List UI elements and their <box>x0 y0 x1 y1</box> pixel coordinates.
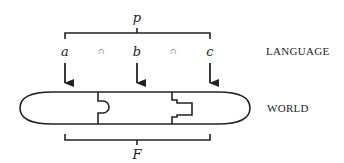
conjunction-symbol-1: ∩ <box>98 47 105 56</box>
language-level-label: LANGUAGE <box>266 45 330 57</box>
bottom-bracket <box>65 134 210 145</box>
conjunction-symbol-2: ∩ <box>170 47 177 56</box>
bottom-label-f: F <box>131 147 142 162</box>
item-label-a: a <box>61 44 69 59</box>
puzzle-joint-round <box>98 92 109 124</box>
top-label-p: p <box>133 10 142 25</box>
item-label-b: b <box>133 44 141 59</box>
puzzle-joint-square <box>172 92 192 124</box>
world-level-label: WORLD <box>267 102 309 114</box>
world-capsule <box>20 92 250 124</box>
top-bracket <box>65 28 210 39</box>
language-world-diagram: p a ∩ b ∩ c F LANGUAGE WORLD <box>0 0 344 163</box>
item-label-c: c <box>206 44 214 59</box>
